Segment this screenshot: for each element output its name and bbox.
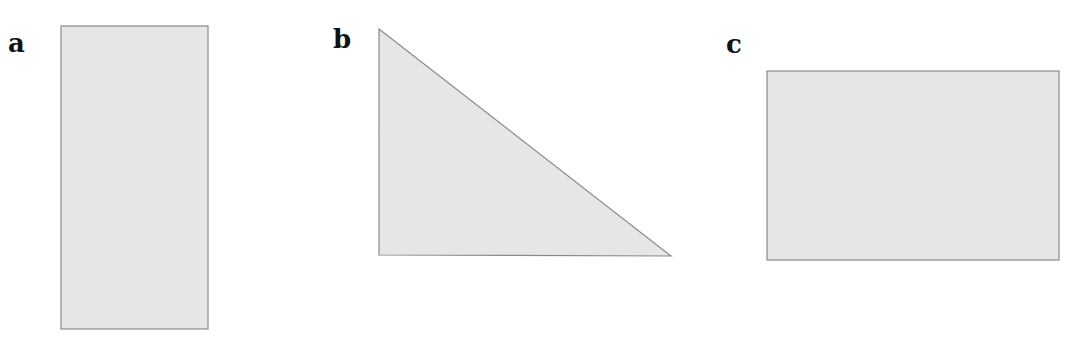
- shape-b-triangle: [379, 29, 671, 256]
- shape-a-rectangle: [61, 26, 208, 329]
- shape-c-rectangle: [767, 71, 1059, 260]
- shapes-canvas: [0, 0, 1069, 351]
